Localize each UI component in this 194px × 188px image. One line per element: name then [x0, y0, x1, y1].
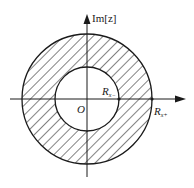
inner-radius-subscript: x−	[108, 92, 116, 98]
inner-radius-point	[117, 97, 120, 100]
imag-axis-label: Im[z]	[92, 12, 116, 24]
z-plane-diagram: Im[z] O Rx− Rx+	[0, 0, 194, 188]
outer-radius-subscript: x+	[160, 112, 168, 118]
outer-radius-point	[150, 97, 153, 100]
origin-label: O	[77, 103, 85, 115]
annulus-hatch-region	[0, 0, 194, 188]
